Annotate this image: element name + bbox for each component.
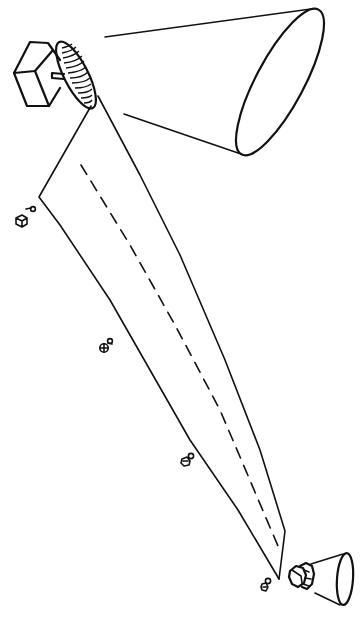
- receiver-cone: [311, 553, 355, 606]
- beam-strip: [39, 96, 285, 579]
- diagram-canvas: [0, 0, 362, 617]
- dish: [49, 37, 104, 114]
- object-2: [100, 339, 113, 353]
- beam-centerline: [81, 165, 278, 546]
- large-cone: [105, 0, 340, 166]
- object-1: [16, 207, 35, 227]
- receiver-nut: [289, 563, 314, 589]
- object-4: [261, 578, 271, 591]
- object-3: [181, 453, 194, 466]
